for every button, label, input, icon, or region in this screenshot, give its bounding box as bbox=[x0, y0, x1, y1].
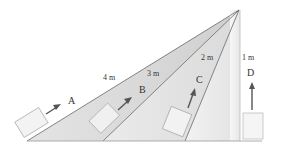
ramp-a-length: 4 m bbox=[103, 73, 116, 82]
ramp-c-length: 2 m bbox=[201, 53, 214, 62]
ramp-d-label: D bbox=[247, 67, 254, 78]
ramp-d-wall bbox=[230, 10, 240, 141]
ramp-b-label: B bbox=[139, 84, 146, 95]
ramp-c-label: C bbox=[196, 74, 203, 85]
inclined-planes-diagram: A 4 m B 3 m C 2 m D 1 m bbox=[0, 0, 281, 153]
ramp-b-length: 3 m bbox=[147, 69, 160, 78]
arrow-a-icon bbox=[46, 104, 61, 114]
ramp-d-length: 1 m bbox=[242, 53, 255, 62]
box-d bbox=[243, 113, 263, 139]
arrow-d-icon bbox=[249, 82, 255, 110]
ramp-a-label: A bbox=[68, 95, 76, 106]
